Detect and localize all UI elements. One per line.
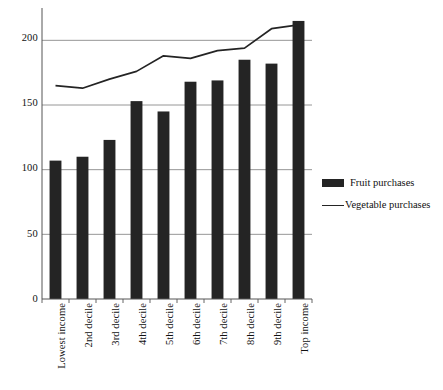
y-tick-label: 200 xyxy=(4,33,38,43)
legend-item-label: Vegetable purchases xyxy=(345,199,430,211)
x-tick-label-wrap: 7th decile xyxy=(204,303,231,389)
x-tick-label: 2nd decile xyxy=(83,303,94,347)
bar xyxy=(77,157,89,299)
x-tick-label-wrap: 8th decile xyxy=(231,303,258,389)
plot-svg xyxy=(42,8,312,299)
x-tick-label-wrap: Lowest income xyxy=(42,303,69,389)
x-tick-label: 3rd decile xyxy=(110,303,121,346)
bar xyxy=(185,82,197,299)
chart-legend: Fruit purchases Vegetable purchases xyxy=(322,172,442,216)
chart-figure: 200 150 100 50 0 Lowest income2nd decile… xyxy=(0,0,443,390)
x-tick-label-wrap: Top income xyxy=(285,303,312,389)
x-tick-label: 6th decile xyxy=(191,303,202,345)
y-axis-labels: 200 150 100 50 0 xyxy=(0,0,38,390)
x-tick-label-wrap: 3rd decile xyxy=(96,303,123,389)
legend-item-label: Fruit purchases xyxy=(350,177,414,189)
legend-item-vegetable-purchases: Vegetable purchases xyxy=(322,194,442,216)
plot-area xyxy=(42,8,312,299)
x-tick-label: Top income xyxy=(299,303,310,354)
bar-series-fruit-purchases xyxy=(50,21,305,299)
x-axis-labels: Lowest income2nd decile3rd decile4th dec… xyxy=(42,303,314,390)
x-tick-label-wrap: 9th decile xyxy=(258,303,285,389)
x-tick-label-wrap: 5th decile xyxy=(150,303,177,389)
x-tick-label: Lowest income xyxy=(56,303,67,369)
y-tick-label: 50 xyxy=(4,229,38,239)
x-tick-label: 5th decile xyxy=(164,303,175,345)
x-tick-label-wrap: 6th decile xyxy=(177,303,204,389)
bar xyxy=(266,64,278,299)
x-tick-label-wrap: 2nd decile xyxy=(69,303,96,389)
line-swatch-icon xyxy=(322,201,344,209)
bar xyxy=(239,60,251,299)
bar xyxy=(50,161,62,299)
x-tick-label: 7th decile xyxy=(218,303,229,345)
x-tick-label: 4th decile xyxy=(137,303,148,345)
x-tick-label: 8th decile xyxy=(245,303,256,345)
y-tick-label: 150 xyxy=(4,98,38,108)
bar-swatch-icon xyxy=(322,179,344,187)
bar xyxy=(293,21,305,299)
bar xyxy=(212,80,224,299)
x-tick-label-wrap: 4th decile xyxy=(123,303,150,389)
legend-item-fruit-purchases: Fruit purchases xyxy=(322,172,442,194)
bar xyxy=(131,101,143,299)
line-series-vegetable-purchases xyxy=(56,25,299,88)
x-tick-label: 9th decile xyxy=(272,303,283,345)
bar xyxy=(104,140,116,299)
y-tick-label: 100 xyxy=(4,163,38,173)
bar xyxy=(158,111,170,299)
y-tick-label: 0 xyxy=(4,294,38,304)
